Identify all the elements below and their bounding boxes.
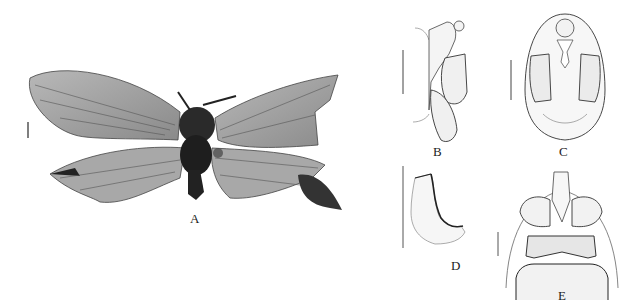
panel-label-c: C <box>559 144 568 160</box>
panel-c: C <box>505 10 625 160</box>
panel-d: D <box>395 160 505 300</box>
panel-label-d: D <box>451 258 460 274</box>
drawing-e <box>490 160 638 304</box>
panel-a: A <box>0 0 360 304</box>
panel-label-a: A <box>190 211 199 227</box>
panel-label-b: B <box>433 144 442 160</box>
drawing-c <box>505 10 625 160</box>
specimen-photo <box>0 0 360 304</box>
drawing-d <box>395 160 505 300</box>
drawing-b <box>395 10 505 160</box>
panel-e: E <box>490 160 638 304</box>
panel-b: B <box>395 10 505 160</box>
panel-label-e: E <box>558 288 566 304</box>
